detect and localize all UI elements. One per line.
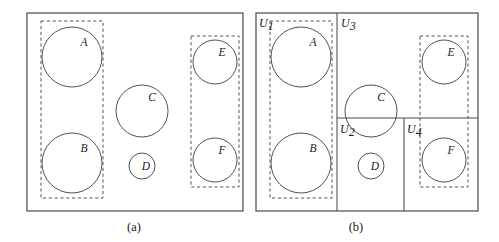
panel-a-dashed-group-left <box>41 21 103 198</box>
panel-b-dashed-group-left <box>270 21 332 198</box>
panel-a-circle-label-d: D <box>141 160 151 172</box>
figure-root: ABCDEF(a) ABCDEFU1U2U3U4(b) <box>0 0 499 242</box>
partition-subscript-2: 2 <box>349 125 355 139</box>
panel-b-circle-label-e: E <box>446 46 454 58</box>
panel-a: ABCDEF(a) <box>27 13 243 234</box>
panel-b-partition-label-u1: U1 <box>259 16 274 33</box>
panel-b-partition-label-u3: U3 <box>341 16 356 33</box>
panel-a-circle-label-c: C <box>148 91 156 103</box>
panel-b-circle-label-a: A <box>308 36 317 48</box>
panel-a-circle-a <box>42 27 102 87</box>
panel-a-circle-label-a: A <box>79 36 88 48</box>
panel-b-circle-e <box>422 40 466 84</box>
panel-b-circle-label-f: F <box>446 144 455 156</box>
panel-a-circle-b <box>42 133 102 193</box>
panel-a-circle-e <box>193 40 237 84</box>
panel-b-circle-label-c: C <box>377 91 385 103</box>
panel-a-caption: (a) <box>127 220 141 234</box>
clustering-partition-figure: ABCDEF(a) ABCDEFU1U2U3U4(b) <box>0 0 499 242</box>
panel-b-partition-label-u4: U4 <box>407 122 422 139</box>
panel-b-circle-b <box>271 133 331 193</box>
panel-a-dashed-group-right <box>191 36 239 187</box>
panel-a-circle-label-e: E <box>217 46 225 58</box>
panel-b: ABCDEFU1U2U3U4(b) <box>256 13 478 234</box>
partition-subscript-4: 4 <box>416 125 422 139</box>
panel-b-partition-label-u2: U2 <box>340 122 355 139</box>
panel-b-caption: (b) <box>349 220 364 234</box>
panel-b-circle-f <box>422 138 466 182</box>
panel-b-dashed-group-right <box>420 36 468 187</box>
panel-a-circle-f <box>193 138 237 182</box>
partition-subscript-1: 1 <box>268 19 274 33</box>
panel-b-circle-label-d: D <box>370 160 380 172</box>
panel-b-circle-label-b: B <box>309 142 316 154</box>
panel-b-circle-a <box>271 27 331 87</box>
panel-a-circle-label-f: F <box>217 144 226 156</box>
panel-a-circle-label-b: B <box>80 142 87 154</box>
partition-subscript-3: 3 <box>349 19 356 33</box>
panel-b-frame <box>256 13 478 211</box>
panel-a-circle-c <box>116 85 168 137</box>
